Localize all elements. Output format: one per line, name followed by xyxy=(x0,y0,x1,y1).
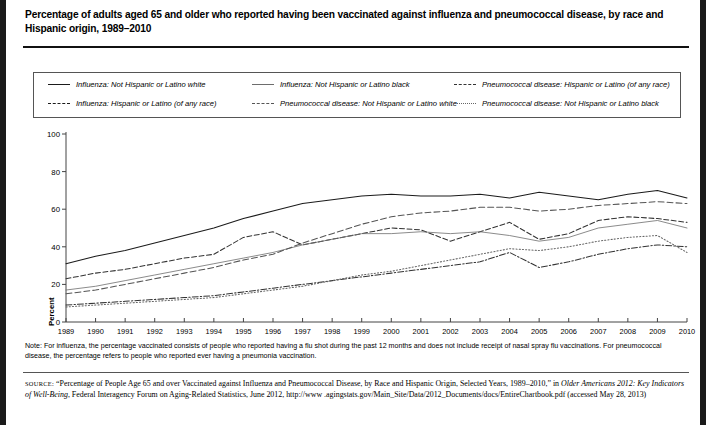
y-axis-tick-label: 20 xyxy=(34,280,60,289)
y-axis-tick-label: 80 xyxy=(34,167,60,176)
legend-line-icon xyxy=(48,81,70,89)
legend-label: Influenza: Not Hispanic or Latino black xyxy=(280,80,410,89)
note-divider xyxy=(23,372,689,373)
legend-items: Influenza: Not Hispanic or Latino whiteI… xyxy=(34,73,680,117)
legend-item: Pneumococcal disease: Not Hispanic or La… xyxy=(454,99,659,108)
legend-label: Pneumococcal disease: Not Hispanic or La… xyxy=(280,99,457,108)
legend-item: Influenza: Not Hispanic or Latino white xyxy=(48,80,206,89)
legend-line-icon xyxy=(252,81,274,89)
chart-source: SOURCE: “Percentage of People Age 65 and… xyxy=(25,378,689,400)
chart-page: Percentage of adults aged 65 and older w… xyxy=(0,0,706,425)
chart-note: Note: For influenza, the percentage vacc… xyxy=(25,342,689,361)
legend-label: Influenza: Not Hispanic or Latino white xyxy=(76,80,206,89)
series-line xyxy=(66,236,687,307)
page-border-right xyxy=(700,0,703,425)
y-axis-tick-label: 40 xyxy=(34,242,60,251)
y-axis-tick-label: 100 xyxy=(34,130,60,139)
source-label: SOURCE: xyxy=(25,380,54,387)
legend-label: Pneumococcal disease: Hispanic or Latino… xyxy=(482,80,670,89)
legend-item: Influenza: Not Hispanic or Latino black xyxy=(252,80,410,89)
x-axis-tick-label: 2010 xyxy=(670,327,704,336)
legend-line-icon xyxy=(454,100,476,108)
legend-item: Pneumococcal disease: Not Hispanic or La… xyxy=(252,99,457,108)
legend-label: Pneumococcal disease: Not Hispanic or La… xyxy=(482,99,659,108)
legend-line-icon xyxy=(48,100,70,108)
chart-title: Percentage of adults aged 65 and older w… xyxy=(25,8,685,35)
title-divider xyxy=(23,46,689,48)
series-line xyxy=(66,245,687,305)
y-axis-tick-label: 0 xyxy=(34,318,60,327)
plot-area: Percent 02040608010019891990199119921993… xyxy=(23,126,689,331)
legend-label: Influenza: Hispanic or Latino (of any ra… xyxy=(76,99,217,108)
series-line xyxy=(66,190,687,263)
series-line xyxy=(66,217,687,279)
y-axis-tick-label: 60 xyxy=(34,205,60,214)
page-border-left xyxy=(3,0,6,425)
legend-line-icon xyxy=(454,81,476,89)
legend-item: Influenza: Hispanic or Latino (of any ra… xyxy=(48,99,217,108)
chart-legend: Influenza: Not Hispanic or Latino whiteI… xyxy=(33,72,681,118)
legend-line-icon xyxy=(252,100,274,108)
legend-item: Pneumococcal disease: Hispanic or Latino… xyxy=(454,80,670,89)
plot-svg xyxy=(23,126,689,331)
series-line xyxy=(66,202,687,294)
source-text-1: “Percentage of People Age 65 and over Va… xyxy=(56,379,561,388)
source-text-2: , Federal Interagency Forum on Aging-Rel… xyxy=(68,390,646,399)
